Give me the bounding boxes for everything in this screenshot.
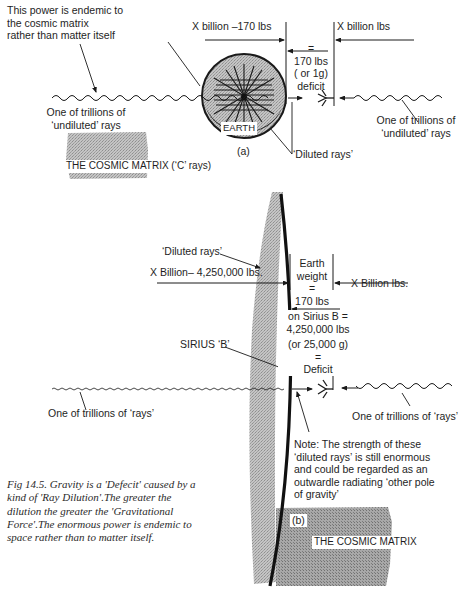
diluted-rays-label-b: ‘Diluted rays’ [162, 245, 222, 258]
weight-line: Earth [292, 257, 332, 270]
deficit-equals: = [290, 42, 332, 55]
label-line: One of trillions of [36, 106, 136, 119]
collision-splash-a [318, 90, 334, 106]
cosmic-matrix-label-b: THE COSMIC MATRIX [312, 536, 419, 549]
undiluted-ray-right [354, 96, 442, 101]
cosmic-matrix-label-a: THE COSMIC MATRIX (‘C’ rays) [64, 160, 213, 173]
weight-line: 4,250,000 lbs [280, 323, 356, 336]
note-line: outwardle radiating ‘other pole [294, 476, 435, 489]
sirius-b-label: SIRIUS ‘B’ [180, 338, 230, 351]
deficit-g: ( or 1g) [290, 67, 332, 80]
note-line: of gravity’ [294, 488, 435, 501]
label-line: ‘undiluted’ rays [366, 127, 466, 140]
right-force-label-a: X billion lbs [337, 20, 390, 33]
collision-splash-b [318, 380, 333, 398]
undiluted-ray-label-left: One of trillions of ‘undiluted’ rays [36, 106, 136, 131]
weight-line: = [292, 282, 332, 295]
figure-caption: Fig 14.5. Gravity is a 'Defecit' caused … [7, 478, 207, 544]
left-force-label-b: X Billion– 4,250,000 lbs. [150, 266, 263, 279]
weight-line: Deficit [280, 363, 356, 376]
ray-left-b [52, 388, 284, 390]
note-line: Note: The strength of these [294, 438, 435, 451]
weight-line: weight [292, 270, 332, 283]
diluted-rays-note: Note: The strength of these ‘diluted ray… [294, 438, 435, 501]
undiluted-ray-label-right: One of trillions of ‘undiluted’ rays [366, 114, 466, 139]
panel-a-tag: (a) [237, 145, 250, 158]
ray-right-b [356, 384, 452, 389]
sirius-weight-label: on Sirius B = 4,250,000 lbs (or 25,000 g… [278, 310, 358, 376]
panel-b-tag: (b) [290, 514, 307, 527]
note-endemic: This power is endemic to the cosmic matr… [7, 4, 123, 42]
weight-line: on Sirius B = [280, 310, 356, 323]
ray-label-right-b: One of trillions of ‘rays’ [352, 410, 458, 423]
earth-weight-label: Earth weight = 170 lbs [292, 257, 332, 307]
diluted-rays-label-a: ‘Diluted rays’ [293, 148, 353, 161]
weight-line: = [280, 351, 356, 364]
earth-label: EARTH [221, 122, 257, 135]
note-line: This power is endemic to [7, 4, 123, 17]
note-line: and could be regarded as an [294, 463, 435, 476]
deficit-value: 170 lbs [290, 55, 332, 68]
right-force-label-b: X Billion lbs. [351, 277, 408, 290]
deficit-word: deficit [290, 80, 332, 93]
note-line: the cosmic matrix [7, 17, 123, 30]
deficit-label-a: = 170 lbs ( or 1g) deficit [290, 42, 332, 92]
label-line: ‘undiluted’ rays [36, 119, 136, 132]
label-line: One of trillions of [366, 114, 466, 127]
note-line: rather than matter itself [7, 29, 123, 42]
ray-label-left-b: One of trillions of ‘rays’ [48, 407, 154, 420]
weight-line: (or 25,000 g) [280, 338, 356, 351]
weight-line: 170 lbs [292, 295, 332, 308]
note-line: ‘diluted rays’ is still enormous [294, 451, 435, 464]
left-force-label-a: X billion –170 lbs [192, 20, 271, 33]
